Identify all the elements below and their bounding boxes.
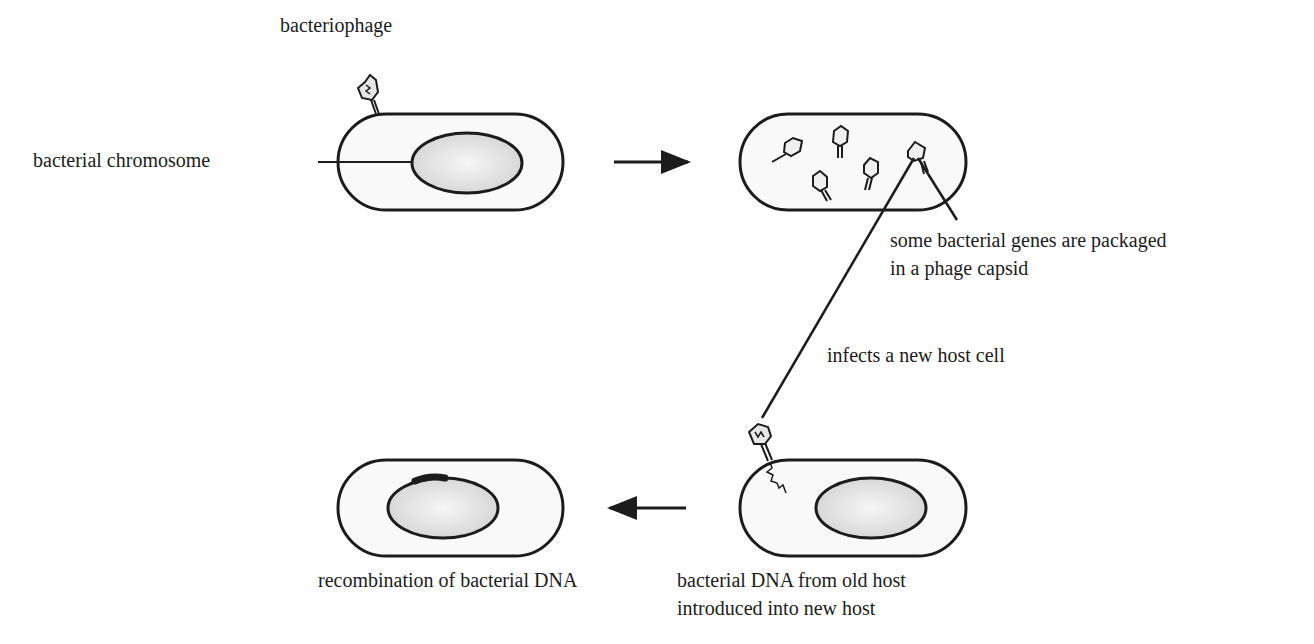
- recombined-segment: [415, 477, 445, 481]
- label-introduced-line2: introduced into new host: [677, 596, 875, 621]
- label-introduced-line1: bacterial DNA from old host: [677, 568, 906, 593]
- phage-icon: [358, 75, 379, 114]
- label-packaged-line2: in a phage capsid: [890, 256, 1028, 281]
- label-bacterial-chromosome: bacterial chromosome: [33, 148, 210, 173]
- transduction-diagram: [0, 0, 1314, 644]
- cell-initial: [318, 75, 563, 210]
- label-bacteriophage: bacteriophage: [280, 13, 392, 38]
- label-packaged-line1: some bacterial genes are packaged: [890, 228, 1167, 253]
- bacterial-chromosome-nucleoid: [412, 133, 522, 193]
- label-infects: infects a new host cell: [827, 343, 1005, 368]
- label-recombination: recombination of bacterial DNA: [318, 568, 577, 593]
- cell-recombinant: [338, 460, 563, 556]
- phage-icon: [749, 424, 772, 461]
- cell-new-host: [740, 424, 966, 556]
